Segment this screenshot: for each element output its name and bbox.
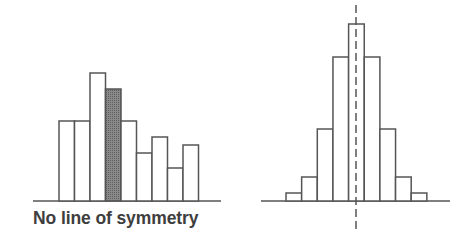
histogram-bar — [302, 177, 318, 201]
histogram-bar — [121, 121, 137, 201]
histogram-bar — [380, 129, 396, 201]
histogram-figure — [0, 0, 472, 237]
highlighted-bar — [106, 89, 122, 201]
histogram-bar — [137, 153, 153, 201]
histogram-bar — [59, 121, 75, 201]
histogram-bar — [168, 168, 184, 201]
histogram-bar — [333, 57, 349, 201]
histogram-bar — [364, 57, 380, 201]
no-symmetry-caption: No line of symmetry — [33, 208, 225, 229]
histogram-bar — [286, 193, 302, 201]
histogram-bar — [317, 129, 333, 201]
histogram-bar — [152, 137, 168, 201]
histogram-bar — [183, 145, 199, 201]
symmetric-histogram — [261, 5, 450, 231]
histogram-bar — [411, 193, 427, 201]
histogram-bar — [75, 121, 91, 201]
asymmetric-histogram — [33, 73, 221, 201]
histogram-bar — [396, 177, 412, 201]
histogram-bar — [90, 73, 106, 201]
